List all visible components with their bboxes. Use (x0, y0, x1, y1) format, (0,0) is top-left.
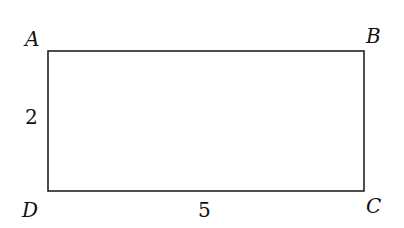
vertex-label-d: D (21, 198, 38, 222)
side-label-dc: 5 (198, 198, 211, 222)
vertex-label-c: C (366, 194, 381, 218)
vertex-label-a: A (23, 27, 39, 51)
rectangle-abcd (48, 51, 364, 191)
side-label-ad: 2 (25, 105, 38, 129)
vertex-label-b: B (365, 24, 381, 48)
rectangle-diagram: A B C D 2 5 (0, 0, 404, 228)
